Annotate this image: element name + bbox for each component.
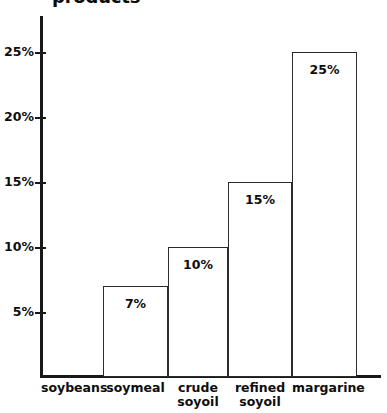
bar-value-margarine: 25% xyxy=(293,62,356,77)
y-tick-label-20: 20% xyxy=(0,111,34,124)
x-label-refined-soyoil-line2: soyoil xyxy=(228,395,292,409)
bar-value-refined-soyoil: 15% xyxy=(229,192,291,207)
x-label-refined-soyoil-line1: refined xyxy=(228,381,292,395)
y-tick-label-25: 25% xyxy=(0,46,34,59)
bar-chart: products 25% 20% 15% 10% 5% 7% 10% 15% xyxy=(0,0,387,413)
x-label-margarine: margarine xyxy=(292,381,357,395)
plot-area: 7% 10% 15% 25% xyxy=(41,16,381,377)
x-label-soymeal: soymeal xyxy=(103,381,168,395)
x-label-refined-soyoil: refined soyoil xyxy=(228,381,292,409)
y-tick-label-15: 15% xyxy=(0,176,34,189)
y-tick-label-5: 5% xyxy=(0,306,34,319)
bar-refined-soyoil[interactable]: 15% xyxy=(228,182,292,377)
x-label-crude-soyoil: crude soyoil xyxy=(168,381,228,409)
x-label-crude-soyoil-line1: crude xyxy=(168,381,228,395)
bar-value-soymeal: 7% xyxy=(104,296,167,311)
y-tick-label-10: 10% xyxy=(0,241,34,254)
bar-soymeal[interactable]: 7% xyxy=(103,286,168,377)
x-label-soybeans: soybeans xyxy=(41,381,103,395)
x-label-crude-soyoil-line2: soyoil xyxy=(168,395,228,409)
bar-crude-soyoil[interactable]: 10% xyxy=(168,247,228,377)
bar-margarine[interactable]: 25% xyxy=(292,52,357,377)
x-label-soybeans-line1: soybeans xyxy=(41,381,103,395)
x-label-soymeal-line1: soymeal xyxy=(103,381,168,395)
x-label-margarine-line1: margarine xyxy=(292,381,357,395)
bar-value-crude-soyoil: 10% xyxy=(169,257,227,272)
chart-title: products xyxy=(52,0,140,7)
